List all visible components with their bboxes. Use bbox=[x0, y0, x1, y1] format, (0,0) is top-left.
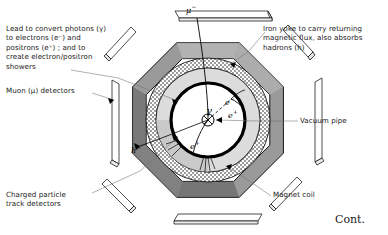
particle-label-electron: e− bbox=[225, 95, 235, 107]
positron-charge: + bbox=[195, 139, 200, 146]
callout-track-detectors-label: Charged particle track detectors bbox=[6, 190, 110, 209]
positron2-charge: + bbox=[233, 108, 238, 115]
callout-magnet-coil-label: Magnet coil bbox=[273, 190, 353, 199]
particle-label-hadron: h+ bbox=[131, 143, 141, 155]
photon-symbol: γ bbox=[206, 105, 212, 116]
callout-vacuum-pipe-label: Vacuum pipe bbox=[300, 116, 384, 125]
figure-canvas: Lead to convert photons (γ) to electrons… bbox=[0, 0, 388, 235]
particle-label-photon: γ bbox=[206, 105, 212, 116]
callout-lead-label: Lead to convert photons (γ) to electrons… bbox=[6, 24, 134, 71]
callout-iron-yoke-label: Iron yoke to carry returning magnetic fl… bbox=[263, 24, 388, 52]
particle-label-muon: μ− bbox=[186, 3, 196, 15]
continuation-note: Cont. bbox=[335, 213, 365, 226]
particle-label-positron: e+ bbox=[190, 139, 200, 151]
particle-label-positron-shower: e+ bbox=[228, 108, 238, 120]
hadron-charge: + bbox=[136, 143, 141, 150]
muon-slab-bottom bbox=[174, 214, 262, 224]
muon-charge: − bbox=[191, 3, 196, 10]
callout-muon-detectors-label: Muon (μ) detectors bbox=[6, 86, 118, 95]
electron-charge: − bbox=[230, 95, 235, 102]
